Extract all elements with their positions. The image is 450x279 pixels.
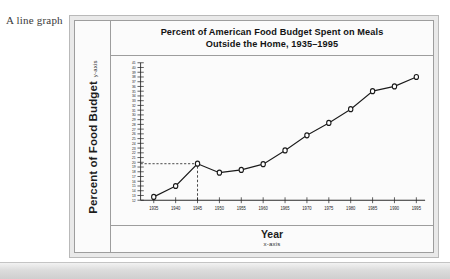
chart-title-line-2: Outside the Home, 1935–1995 <box>119 39 425 51</box>
x-axis-subtitle: x-axis <box>111 240 433 248</box>
svg-text:33: 33 <box>132 99 136 103</box>
svg-text:1960: 1960 <box>259 206 269 211</box>
svg-text:13: 13 <box>132 194 136 198</box>
svg-text:18: 18 <box>132 170 136 174</box>
line-chart-svg: 4140393837363534333231302928272625242322… <box>111 56 433 225</box>
svg-text:19: 19 <box>132 165 136 169</box>
svg-text:1965: 1965 <box>280 206 290 211</box>
chart-panel: Percent of Food Budget y-axis Percent of… <box>69 15 439 258</box>
svg-text:1990: 1990 <box>390 206 400 211</box>
svg-text:12: 12 <box>132 198 136 202</box>
svg-text:27: 27 <box>132 127 136 131</box>
chart-title: Percent of American Food Budget Spent on… <box>111 21 433 56</box>
svg-text:26: 26 <box>132 132 136 136</box>
svg-text:21: 21 <box>132 156 136 160</box>
x-axis-label-footer: Year x-axis <box>111 225 433 252</box>
y-axis-title: Percent of Food Budget <box>87 81 99 214</box>
svg-text:41: 41 <box>132 61 136 65</box>
svg-text:24: 24 <box>132 142 136 146</box>
svg-text:22: 22 <box>132 151 136 155</box>
svg-text:40: 40 <box>132 66 136 70</box>
svg-text:36: 36 <box>132 85 136 89</box>
svg-text:25: 25 <box>132 137 136 141</box>
svg-text:1935: 1935 <box>149 206 159 211</box>
y-axis-label-rotated: Percent of Food Budget y-axis <box>87 60 99 213</box>
svg-text:28: 28 <box>132 123 136 127</box>
x-axis-title: Year <box>111 228 433 240</box>
svg-text:20: 20 <box>132 161 136 165</box>
svg-text:1955: 1955 <box>237 206 247 211</box>
y-axis-subtitle: y-axis <box>92 60 98 77</box>
svg-text:17: 17 <box>132 175 136 179</box>
svg-text:35: 35 <box>132 89 136 93</box>
svg-text:1940: 1940 <box>171 206 181 211</box>
figure-root: A line graph Percent of Food Budget y-ax… <box>0 0 450 279</box>
svg-text:1945: 1945 <box>193 206 203 211</box>
svg-text:1975: 1975 <box>324 206 334 211</box>
svg-text:29: 29 <box>132 118 136 122</box>
figure-caption: A line graph <box>6 14 63 26</box>
svg-text:15: 15 <box>132 184 136 188</box>
svg-text:23: 23 <box>132 146 136 150</box>
plot-area: 4140393837363534333231302928272625242322… <box>111 56 433 225</box>
svg-text:37: 37 <box>132 80 136 84</box>
svg-text:34: 34 <box>132 94 136 98</box>
chart-content-column: Percent of American Food Budget Spent on… <box>111 21 433 252</box>
svg-text:1995: 1995 <box>412 206 422 211</box>
svg-text:16: 16 <box>132 180 136 184</box>
footer-band <box>0 263 450 279</box>
svg-text:38: 38 <box>132 75 136 79</box>
svg-text:1980: 1980 <box>346 206 356 211</box>
svg-text:1950: 1950 <box>215 206 225 211</box>
chart-panel-inner: Percent of Food Budget y-axis Percent of… <box>74 20 434 253</box>
svg-text:31: 31 <box>132 108 136 112</box>
svg-text:39: 39 <box>132 71 136 75</box>
svg-text:30: 30 <box>132 113 136 117</box>
svg-text:14: 14 <box>132 189 136 193</box>
y-axis-label-column: Percent of Food Budget y-axis <box>75 21 111 252</box>
svg-text:1985: 1985 <box>368 206 378 211</box>
svg-text:1970: 1970 <box>302 206 312 211</box>
chart-title-line-1: Percent of American Food Budget Spent on… <box>119 27 425 39</box>
svg-text:32: 32 <box>132 104 136 108</box>
